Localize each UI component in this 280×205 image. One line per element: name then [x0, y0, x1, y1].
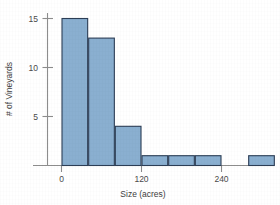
x-tick-label-240: 240	[214, 174, 228, 184]
histogram-chart: 15 10 5 # of Vineyards 0 120 240 Size (a…	[0, 0, 280, 205]
histogram-bar	[142, 156, 168, 166]
histogram-bar	[89, 38, 115, 165]
histogram-bar	[249, 156, 275, 166]
histogram-bar	[115, 126, 141, 165]
x-axis-title: Size (acres)	[120, 189, 166, 199]
x-tick-label-0: 0	[59, 174, 64, 184]
histogram-bar	[195, 156, 221, 166]
histogram-bar	[62, 19, 88, 166]
histogram-bar	[169, 156, 195, 166]
y-tick-label-10: 10	[29, 63, 39, 73]
y-tick-label-5: 5	[33, 112, 38, 122]
x-tick-label-120: 120	[134, 174, 148, 184]
y-axis-title: # of Vineyards	[4, 62, 14, 116]
y-tick-label-15: 15	[29, 14, 39, 24]
